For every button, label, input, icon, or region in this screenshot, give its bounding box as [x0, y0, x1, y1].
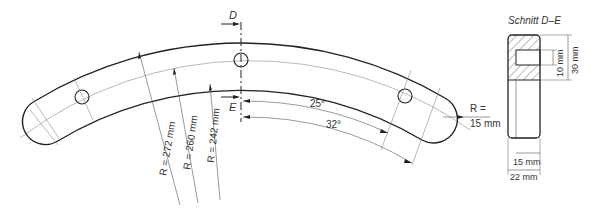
section-view: Schnitt D–E 10 mm 30 mm 15 mm 22 mm	[508, 15, 580, 182]
hole-right	[398, 89, 412, 103]
outer-edge	[35, 43, 445, 101]
radius-inner-label: R = 242 mm	[205, 108, 222, 164]
total-height-label: 30 mm	[570, 46, 580, 74]
slot-width-label: 15 mm	[513, 157, 541, 167]
technical-drawing: D E R = 272 mm R = 260 mm R = 242 mm 25°…	[0, 0, 603, 212]
end-radius-label-2: 15 mm	[470, 118, 501, 129]
right-end-cap	[422, 98, 457, 143]
hole-left	[75, 90, 89, 104]
centerline	[20, 61, 470, 138]
section-slot	[516, 50, 540, 65]
section-mark-e: E	[229, 101, 237, 113]
end-radius-label-1: R =	[470, 103, 486, 114]
section-title: Schnitt D–E	[508, 15, 561, 26]
angle-dims	[243, 101, 412, 163]
curved-bar	[20, 43, 470, 145]
section-mark-d: D	[229, 9, 237, 21]
left-end-cap	[22, 101, 56, 145]
radius-outer-label: R = 272 mm	[157, 121, 177, 177]
slot-height-label: 10 mm	[555, 49, 565, 77]
angle-holes-label: 25°	[310, 98, 325, 109]
angle-ends-label: 32°	[326, 119, 341, 130]
inner-edge	[56, 90, 422, 142]
section-line: D E	[221, 9, 241, 122]
total-width-label: 22 mm	[510, 172, 538, 182]
